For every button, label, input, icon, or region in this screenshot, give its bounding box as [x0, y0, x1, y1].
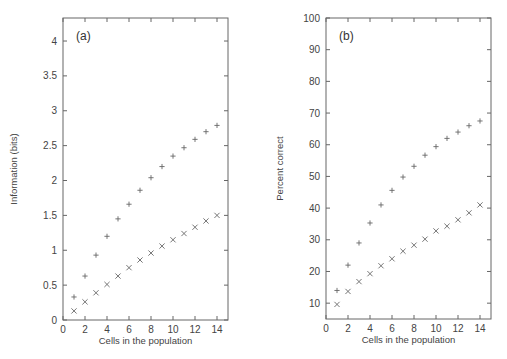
- x-tick-label: 10: [430, 323, 442, 334]
- y-tick-label: 40: [309, 203, 321, 214]
- cross-marker: [455, 217, 460, 222]
- plus-marker: [137, 188, 142, 193]
- plus-marker: [334, 288, 339, 293]
- plus-marker: [71, 294, 76, 299]
- cross-marker: [126, 265, 131, 270]
- plus-marker: [115, 216, 120, 221]
- chart-panel-a: 02468101214Cells in the population00.511…: [8, 18, 228, 346]
- x-tick-label: 2: [345, 323, 351, 334]
- plus-marker: [411, 164, 416, 169]
- plus-marker: [356, 240, 361, 245]
- cross-marker: [93, 290, 98, 295]
- panel-label: (a): [76, 29, 91, 43]
- y-tick-label: 20: [309, 266, 321, 277]
- plus-marker: [477, 118, 482, 123]
- chart-panel-b: 02468101214Cells in the population102030…: [274, 13, 491, 346]
- y-tick-label: 1.5: [43, 210, 57, 221]
- x-tick-label: 2: [82, 324, 88, 335]
- x-tick-label: 10: [167, 324, 179, 335]
- y-tick-label: 0.5: [43, 280, 57, 291]
- x-tick-label: 0: [323, 323, 329, 334]
- y-axis-label: Percent correct: [274, 136, 285, 201]
- plus-marker: [181, 145, 186, 150]
- cross-marker: [104, 282, 109, 287]
- y-tick-label: 100: [303, 13, 320, 24]
- y-tick-label: 90: [309, 44, 321, 55]
- plus-marker: [444, 136, 449, 141]
- plus-marker: [170, 153, 175, 158]
- cross-marker: [422, 237, 427, 242]
- cross-marker: [433, 228, 438, 233]
- plus-marker: [214, 123, 219, 128]
- y-tick-label: 60: [309, 139, 321, 150]
- plus-marker: [466, 123, 471, 128]
- y-tick-label: 2.5: [43, 140, 57, 151]
- plus-marker: [433, 144, 438, 149]
- x-tick-label: 6: [389, 323, 395, 334]
- plus-marker: [203, 129, 208, 134]
- cross-marker: [214, 213, 219, 218]
- plus-marker: [422, 153, 427, 158]
- plus-marker: [400, 174, 405, 179]
- cross-marker: [345, 289, 350, 294]
- cross-marker: [181, 231, 186, 236]
- y-tick-label: 2: [51, 175, 57, 186]
- cross-marker: [356, 279, 361, 284]
- cross-marker: [477, 202, 482, 207]
- figure: 02468101214Cells in the population00.511…: [0, 0, 507, 359]
- plus-marker: [93, 253, 98, 258]
- plus-marker: [455, 129, 460, 134]
- x-tick-label: 14: [474, 323, 486, 334]
- cross-marker: [378, 263, 383, 268]
- series-cross: [71, 213, 219, 314]
- plus-marker: [126, 202, 131, 207]
- cross-marker: [71, 308, 76, 313]
- x-tick-label: 6: [126, 324, 132, 335]
- x-tick-label: 4: [104, 324, 110, 335]
- panel-label: (b): [339, 29, 354, 43]
- series-plus: [71, 123, 219, 300]
- cross-marker: [148, 250, 153, 255]
- y-axis: 00.511.522.533.54Information (bits): [8, 36, 228, 326]
- y-tick-label: 80: [309, 76, 321, 87]
- plus-marker: [82, 273, 87, 278]
- x-axis: 02468101214Cells in the population: [323, 18, 486, 345]
- x-axis: 02468101214Cells in the population: [60, 18, 223, 346]
- y-tick-label: 3.5: [43, 70, 57, 81]
- cross-marker: [334, 302, 339, 307]
- plus-marker: [159, 164, 164, 169]
- plus-marker: [389, 188, 394, 193]
- plot-frame: [63, 18, 228, 320]
- plus-marker: [148, 175, 153, 180]
- plus-marker: [367, 220, 372, 225]
- plus-marker: [104, 234, 109, 239]
- x-tick-label: 12: [189, 324, 201, 335]
- x-tick-label: 8: [148, 324, 154, 335]
- plot-frame: [326, 18, 491, 319]
- x-axis-label: Cells in the population: [362, 334, 455, 345]
- cross-marker: [82, 299, 87, 304]
- cross-marker: [159, 243, 164, 248]
- x-tick-label: 12: [452, 323, 464, 334]
- cross-marker: [444, 224, 449, 229]
- cross-marker: [115, 273, 120, 278]
- plus-marker: [378, 202, 383, 207]
- cross-marker: [170, 237, 175, 242]
- x-axis-label: Cells in the population: [99, 335, 192, 346]
- cross-marker: [203, 218, 208, 223]
- cross-marker: [137, 257, 142, 262]
- series-plus: [334, 118, 482, 293]
- y-tick-label: 0: [51, 315, 57, 326]
- cross-marker: [411, 243, 416, 248]
- series-cross: [334, 202, 482, 307]
- x-tick-label: 0: [60, 324, 66, 335]
- x-tick-label: 14: [211, 324, 223, 335]
- y-tick-label: 4: [51, 36, 57, 47]
- x-tick-label: 8: [411, 323, 417, 334]
- plus-marker: [192, 137, 197, 142]
- cross-marker: [367, 271, 372, 276]
- y-axis-label: Information (bits): [8, 133, 19, 204]
- cross-marker: [466, 210, 471, 215]
- y-tick-label: 1: [51, 245, 57, 256]
- cross-marker: [192, 225, 197, 230]
